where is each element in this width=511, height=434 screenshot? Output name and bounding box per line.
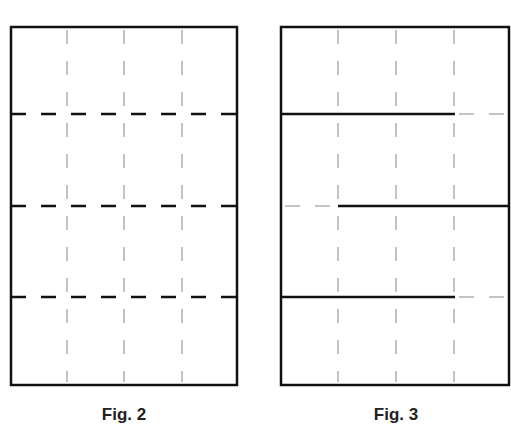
figures-canvas bbox=[0, 0, 511, 434]
figure-2 bbox=[11, 27, 237, 385]
figure-2-caption: Fig. 2 bbox=[64, 405, 184, 425]
figure-3-caption: Fig. 3 bbox=[336, 405, 456, 425]
figure-3 bbox=[281, 27, 509, 385]
